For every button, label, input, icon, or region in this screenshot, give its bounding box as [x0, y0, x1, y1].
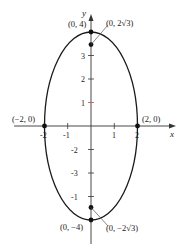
- label-covertex-right: (2, 0): [142, 114, 161, 124]
- y-axis-arrow-icon: [89, 14, 94, 21]
- x-axis-arrow-icon: [169, 124, 176, 129]
- svg-text:-1: -1: [71, 193, 78, 202]
- x-axis-label: x: [169, 129, 174, 139]
- svg-text:-2: -2: [71, 146, 78, 155]
- label-vertex-top: (0, 4): [68, 19, 87, 29]
- svg-text:-2: -2: [40, 131, 47, 140]
- y-axis-label: y: [81, 8, 86, 18]
- label-focus-bottom: (0, −2√3): [106, 223, 138, 233]
- svg-text:3: 3: [81, 52, 85, 61]
- point-covertex-left: [42, 124, 47, 129]
- svg-text:1: 1: [81, 99, 85, 108]
- point-vertex-top: [89, 30, 94, 35]
- label-covertex-left: (−2, 0): [12, 114, 35, 124]
- svg-text:-3: -3: [71, 169, 78, 178]
- label-vertex-bottom: (0, −4): [60, 222, 83, 232]
- svg-text:2: 2: [81, 75, 85, 84]
- point-vertex-bottom: [89, 218, 94, 223]
- ellipse-diagram: x y -2 -1 1 2 -3 -2 -1 1 2 3: [0, 0, 182, 248]
- point-covertex-right: [135, 124, 140, 129]
- svg-text:1: 1: [112, 131, 116, 140]
- label-focus-top: (0, 2√3): [106, 18, 133, 28]
- svg-text:-1: -1: [63, 131, 70, 140]
